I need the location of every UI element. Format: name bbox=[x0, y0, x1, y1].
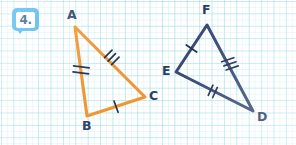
triangle-EFD bbox=[176, 25, 253, 111]
vertex-label-C: C bbox=[149, 90, 158, 103]
triangle-ABC bbox=[73, 27, 145, 116]
geometry-figures bbox=[0, 0, 296, 145]
triangle-EFD-outline bbox=[176, 25, 253, 111]
vertex-label-D: D bbox=[257, 111, 267, 124]
vertex-label-A: A bbox=[67, 9, 77, 22]
vertex-label-F: F bbox=[202, 4, 211, 17]
triangle-ABC-outline bbox=[75, 27, 145, 116]
vertex-label-B: B bbox=[82, 120, 92, 133]
vertex-label-E: E bbox=[162, 65, 171, 78]
worksheet-page: 4. bbox=[0, 0, 296, 145]
